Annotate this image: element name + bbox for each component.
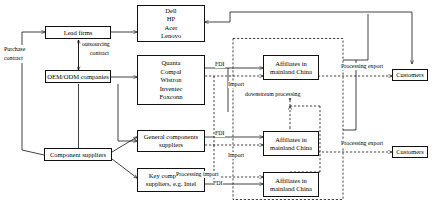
- brand-item: Acer: [165, 24, 178, 33]
- affiliate-middle-line: Affiliates in: [275, 136, 307, 144]
- node-general-components-suppliers[interactable]: General components suppliers: [137, 130, 205, 152]
- node-customers-top[interactable]: Customers: [392, 69, 428, 81]
- general-components-line: suppliers: [159, 141, 183, 149]
- manufacturer-item: Quanta: [161, 59, 180, 68]
- edge-label-processing-export-bottom: Processing export: [341, 140, 383, 147]
- outsourcing-contract-line1: outsourcing: [82, 41, 110, 47]
- edge-label-fdi-top: FDI: [215, 61, 225, 68]
- key-components-line: suppliers, e.g. Intel: [146, 180, 196, 188]
- affiliate-bottom-line: Affiliates in: [275, 177, 307, 185]
- manufacturer-item: Wistron: [161, 76, 182, 85]
- node-contract-manufacturers[interactable]: Quanta Compal Wistron Inventec Foxconn: [137, 55, 205, 105]
- affiliate-top-line: mainland China: [270, 68, 312, 76]
- brand-item: Dell: [165, 6, 176, 15]
- node-affiliate-middle[interactable]: Affiliates in mainland China: [263, 131, 319, 156]
- edge-label-fdi-middle: FDI: [215, 130, 225, 137]
- edge-label-import-top: Import: [228, 81, 244, 88]
- customers-bottom-label: Customers: [396, 148, 423, 156]
- affiliate-top-line: Affiliates in: [275, 60, 307, 68]
- edge-label-fdi-bottom: FDI: [213, 180, 223, 187]
- node-component-suppliers-label: Component suppliers: [50, 151, 106, 159]
- general-components-line: General components: [144, 133, 198, 141]
- node-oem-odm-label: OEM/ODM companies: [47, 73, 109, 81]
- edge-label-downstream-processing: downstream processing: [245, 91, 300, 98]
- node-affiliate-bottom[interactable]: Affiliates in mainland China: [263, 172, 319, 197]
- purchase-contract-line2: contract: [4, 55, 23, 61]
- node-lead-firms-label: Lead firms: [64, 29, 93, 37]
- edge-label-import-middle: Import: [228, 152, 244, 159]
- manufacturer-item: Inventec: [160, 84, 183, 93]
- node-brand-firms[interactable]: Dell HP Acer Lenovo: [137, 5, 205, 42]
- value-chain-diagram: Lead firms OEM/ODM companies Component s…: [0, 0, 435, 215]
- affiliate-bottom-line: mainland China: [270, 185, 312, 193]
- outsourcing-contract-line2: contract: [90, 49, 109, 58]
- node-affiliate-top[interactable]: Affiliates in mainland China: [263, 55, 319, 80]
- node-component-suppliers[interactable]: Component suppliers: [44, 148, 112, 161]
- edge-label-processing-import-bottom: Processing import: [176, 171, 219, 178]
- brand-item: Lenovo: [161, 32, 181, 41]
- manufacturer-item: Foxconn: [159, 93, 182, 102]
- customers-top-label: Customers: [396, 71, 423, 79]
- node-customers-bottom[interactable]: Customers: [392, 146, 428, 158]
- brand-item: HP: [167, 15, 175, 24]
- edge-label-processing-export-top: Processing export: [341, 63, 383, 70]
- node-lead-firms[interactable]: Lead firms: [45, 26, 111, 39]
- edge-label-purchase-contract: Purchase contract: [4, 45, 25, 63]
- affiliate-middle-line: mainland China: [270, 144, 312, 152]
- node-oem-odm-companies[interactable]: OEM/ODM companies: [45, 70, 111, 83]
- edge-label-outsourcing-contract: outsourcing contract: [82, 40, 110, 58]
- purchase-contract-line1: Purchase: [4, 46, 25, 52]
- manufacturer-item: Compal: [161, 67, 182, 76]
